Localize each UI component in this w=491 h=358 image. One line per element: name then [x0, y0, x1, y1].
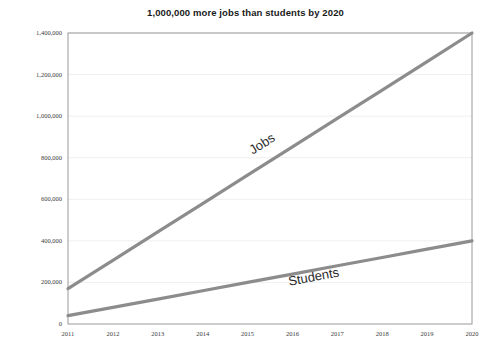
x-tick-label: 2012: [93, 330, 133, 337]
x-tick-label: 2019: [407, 330, 447, 337]
x-tick-label: 2016: [272, 330, 312, 337]
y-tick-label: 1,000,000: [4, 112, 62, 119]
x-tick-label: 2017: [317, 330, 357, 337]
plot-area: [0, 0, 491, 358]
y-tick-label: 400,000: [4, 237, 62, 244]
plot-background: [68, 33, 472, 324]
y-tick-label: 1,200,000: [4, 71, 62, 78]
x-tick-label: 2014: [183, 330, 223, 337]
x-tick-label: 2011: [48, 330, 88, 337]
y-tick-label: 600,000: [4, 195, 62, 202]
y-tick-label: 800,000: [4, 154, 62, 161]
x-tick-label: 2018: [362, 330, 402, 337]
y-tick-label: 200,000: [4, 278, 62, 285]
y-tick-label: 1,400,000: [4, 29, 62, 36]
x-tick-label: 2013: [138, 330, 178, 337]
x-tick-label: 2020: [452, 330, 491, 337]
chart-container: 1,000,000 more jobs than students by 202…: [0, 0, 491, 358]
y-tick-label: 0: [4, 320, 62, 327]
x-tick-label: 2015: [228, 330, 268, 337]
